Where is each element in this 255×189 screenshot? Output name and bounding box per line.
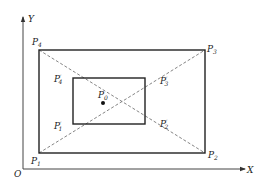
origin-label: O [14,169,22,179]
y-axis-label: Y [28,14,35,24]
label-p3: P3 [206,44,217,55]
label-p1-prime: P′1 [53,120,62,132]
coordinate-diagram: Y X O P0 P1 P2 P3 P4 P′1 P′2 P′3 P′4 [0,0,255,189]
label-p1: P1 [30,156,41,167]
inner-rectangle [73,78,145,124]
label-p4-prime: P′4 [53,73,62,85]
label-p3-prime: P′3 [159,75,168,87]
label-p2-prime: P′2 [159,118,168,130]
center-label: P0 [97,90,108,101]
label-p4: P4 [31,37,42,48]
label-p2: P2 [207,150,218,161]
x-axis-label: X [246,165,254,175]
center-point [101,101,105,105]
